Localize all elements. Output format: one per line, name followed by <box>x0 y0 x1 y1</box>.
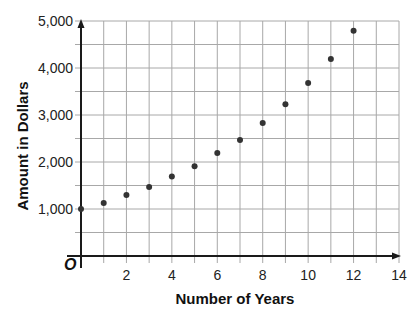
x-tick-label: 12 <box>346 267 362 283</box>
x-axis-title: Number of Years <box>176 290 295 307</box>
data-point <box>123 192 129 198</box>
data-point <box>328 56 334 62</box>
y-tick-label: 3,000 <box>38 107 73 123</box>
y-axis-arrow-icon <box>78 19 85 28</box>
y-tick-label: 1,000 <box>38 201 73 217</box>
y-tick-label: 5,000 <box>38 13 73 29</box>
x-tick-label: 8 <box>259 267 267 283</box>
data-point <box>169 174 175 180</box>
axes <box>67 19 401 268</box>
data-point <box>305 80 311 86</box>
x-tick-label: 14 <box>391 267 407 283</box>
y-axis-title: Amount in Dollars <box>14 81 31 210</box>
data-point <box>214 150 220 156</box>
y-tick-label: 4,000 <box>38 60 73 76</box>
x-tick-label: 4 <box>168 267 176 283</box>
data-point <box>146 184 152 190</box>
x-tick-label: 6 <box>213 267 221 283</box>
x-axis-arrow-icon <box>392 253 401 260</box>
data-point <box>192 163 198 169</box>
x-tick-label: 10 <box>300 267 316 283</box>
origin-label: O <box>64 256 77 273</box>
y-tick-label: 2,000 <box>38 154 73 170</box>
data-point <box>101 200 107 206</box>
grid-lines <box>75 21 399 263</box>
tick-labels: 24681012141,0002,0003,0004,0005,000 <box>38 13 407 283</box>
data-point <box>282 101 288 107</box>
data-point <box>237 137 243 143</box>
data-point <box>260 120 266 126</box>
data-point <box>351 28 357 34</box>
data-point <box>78 206 84 212</box>
scatter-chart: 24681012141,0002,0003,0004,0005,000 Numb… <box>0 0 419 321</box>
x-tick-label: 2 <box>123 267 131 283</box>
